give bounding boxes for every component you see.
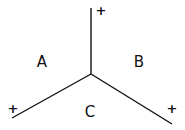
region-label-a: A [37, 53, 48, 71]
boundary-line-right [91, 74, 172, 124]
plus-sign-right: + [167, 101, 178, 116]
boundary-line-left [12, 74, 91, 118]
plus-sign-left: + [8, 101, 19, 116]
region-label-b: B [134, 53, 144, 71]
phase-diagram: + + + A B C [0, 0, 185, 130]
plus-sign-top: + [96, 3, 107, 18]
region-label-c: C [85, 103, 95, 121]
